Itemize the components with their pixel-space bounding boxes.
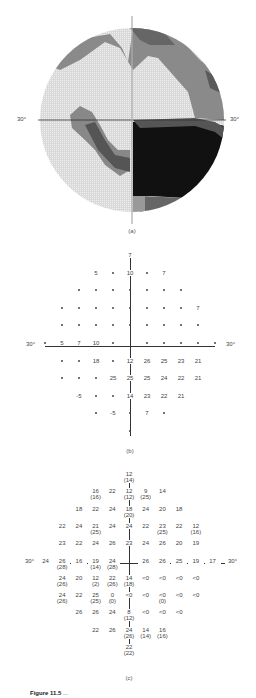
test-point (112, 395, 114, 397)
grayscale-field-map (0, 0, 256, 240)
test-point (112, 324, 114, 326)
threshold-value: 25 (122, 375, 138, 381)
threshold-value: 23 (121, 540, 137, 546)
threshold-value: 25 (139, 375, 155, 381)
test-point (129, 289, 131, 291)
test-point (163, 307, 165, 309)
test-point (95, 377, 97, 379)
threshold-value: 7 (122, 252, 138, 258)
threshold-value: 26 (138, 558, 154, 564)
threshold-value: 26(28) (54, 558, 70, 570)
threshold-value: 22 (88, 627, 104, 633)
threshold-value: 21 (173, 393, 189, 399)
threshold-value: 22 (104, 488, 120, 494)
threshold-value: 24 (71, 523, 87, 529)
panel-b-grid: 7510775710181226252321252525242221-51423… (0, 240, 256, 465)
threshold-value: 18(20) (121, 506, 137, 518)
threshold-value: <0 (121, 592, 137, 598)
threshold-value: 24 (138, 540, 154, 546)
threshold-value: <0 (138, 575, 154, 581)
test-point (129, 430, 131, 432)
test-point (197, 324, 199, 326)
threshold-value: -5 (71, 393, 87, 399)
threshold-value: 7 (139, 410, 155, 416)
test-point (95, 324, 97, 326)
panel-b-caption: (b) (120, 448, 140, 454)
test-point (78, 377, 80, 379)
threshold-value: 14 (122, 393, 138, 399)
test-point (95, 289, 97, 291)
figure-caption: Figure 11.5 ... (30, 690, 68, 696)
threshold-value: 10 (122, 270, 138, 276)
threshold-value: 21(25) (88, 523, 104, 535)
figure-label: Figure 11.5 (30, 690, 61, 696)
threshold-value: 22 (71, 592, 87, 598)
threshold-value: 22(22) (121, 644, 137, 656)
threshold-value: 20 (154, 506, 170, 512)
threshold-value: 17 (205, 558, 221, 564)
threshold-value: 24 (104, 609, 120, 615)
threshold-value: <0(0) (154, 592, 170, 604)
test-point (180, 324, 182, 326)
test-point (129, 412, 131, 414)
threshold-value: 24 (38, 558, 54, 564)
threshold-value: 24 (138, 506, 154, 512)
threshold-value: <0 (171, 609, 187, 615)
test-point (78, 289, 80, 291)
threshold-value: 14(14) (138, 627, 154, 639)
test-point (112, 272, 114, 274)
threshold-value: 16(16) (88, 488, 104, 500)
threshold-value: 24 (88, 540, 104, 546)
threshold-value: 24 (121, 523, 137, 529)
threshold-value: <0 (188, 592, 204, 598)
test-point (146, 289, 148, 291)
threshold-value: 22 (173, 375, 189, 381)
panel-b: 30° 30° 75107757101812262523212525252422… (0, 240, 256, 465)
threshold-value: 22(26) (104, 575, 120, 587)
threshold-value: 12(16) (188, 523, 204, 535)
threshold-value: <0 (171, 575, 187, 581)
test-point (78, 360, 80, 362)
threshold-value: 14(18) (121, 575, 137, 587)
threshold-value: 21 (190, 358, 206, 364)
test-point (129, 307, 131, 309)
threshold-value: 18 (88, 358, 104, 364)
threshold-value: 24(26) (54, 592, 70, 604)
panel-a-caption: (a) (122, 228, 142, 234)
threshold-value: <0 (138, 592, 154, 598)
threshold-value: 26 (139, 358, 155, 364)
threshold-value: 22 (156, 393, 172, 399)
panel-a: 30° 30° (a) (0, 0, 256, 240)
test-point (163, 342, 165, 344)
threshold-value: 5 (88, 270, 104, 276)
threshold-value: 26 (88, 609, 104, 615)
threshold-value: 19(14) (88, 558, 104, 570)
test-point (78, 307, 80, 309)
test-point (146, 307, 148, 309)
threshold-value: 18 (171, 506, 187, 512)
test-point (61, 360, 63, 362)
threshold-value: 24 (104, 523, 120, 529)
threshold-value: 25(25) (88, 592, 104, 604)
threshold-value: 22 (88, 506, 104, 512)
threshold-value: 25 (105, 375, 121, 381)
threshold-value: 26 (104, 627, 120, 633)
threshold-value: -5 (105, 410, 121, 416)
threshold-value: 20 (71, 575, 87, 581)
test-point (163, 289, 165, 291)
threshold-value: 10 (88, 340, 104, 346)
panel-c-grid: 12(14)16(16)2212(12)9(25)1418222418(20)2… (0, 465, 256, 690)
threshold-value: 16 (71, 558, 87, 564)
threshold-value: 23 (139, 393, 155, 399)
threshold-value: 12 (122, 358, 138, 364)
test-point (112, 342, 114, 344)
threshold-value: 14 (154, 488, 170, 494)
test-point (78, 324, 80, 326)
threshold-value: 24(26) (121, 627, 137, 639)
panel-c-caption: (c) (119, 675, 139, 681)
threshold-value: 24(28) (104, 558, 120, 570)
threshold-value: <0 (138, 609, 154, 615)
threshold-value: 23(25) (154, 523, 170, 535)
threshold-value: 12(2) (88, 575, 104, 587)
threshold-value: 23 (54, 540, 70, 546)
